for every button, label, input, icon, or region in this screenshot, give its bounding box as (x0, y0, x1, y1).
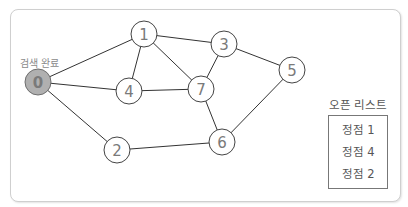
node-label: 0 (33, 74, 43, 92)
graph-node-0: 0 (25, 69, 51, 95)
edge-2-6 (117, 142, 222, 150)
graph-node-6: 6 (209, 129, 235, 155)
node-label: 1 (139, 26, 149, 44)
graph-node-7: 7 (188, 76, 214, 102)
edge-0-2 (38, 82, 117, 150)
search-complete-label: 검색 완료 (20, 55, 59, 70)
graph-node-4: 4 (116, 78, 142, 104)
node-label: 3 (219, 36, 229, 54)
open-list-item: 정점 4 (329, 141, 387, 163)
open-list-box: 정점 1 정점 4 정점 2 (328, 115, 388, 189)
graph-node-1: 1 (131, 21, 157, 47)
open-list-item: 정점 1 (329, 119, 387, 141)
graph-node-2: 2 (104, 137, 130, 163)
graph-edges (38, 34, 292, 150)
open-list-title: 오픈 리스트 (322, 96, 394, 112)
graph-node-5: 5 (279, 57, 305, 83)
node-label: 6 (217, 134, 227, 152)
graph-nodes: 01234567 (25, 21, 305, 163)
graph-node-3: 3 (211, 31, 237, 57)
node-label: 4 (124, 83, 134, 101)
node-label: 2 (112, 142, 122, 160)
edge-0-4 (38, 82, 129, 91)
open-list-item: 정점 2 (329, 163, 387, 185)
node-label: 7 (196, 81, 206, 99)
node-label: 5 (287, 62, 297, 80)
edge-5-6 (222, 70, 292, 142)
